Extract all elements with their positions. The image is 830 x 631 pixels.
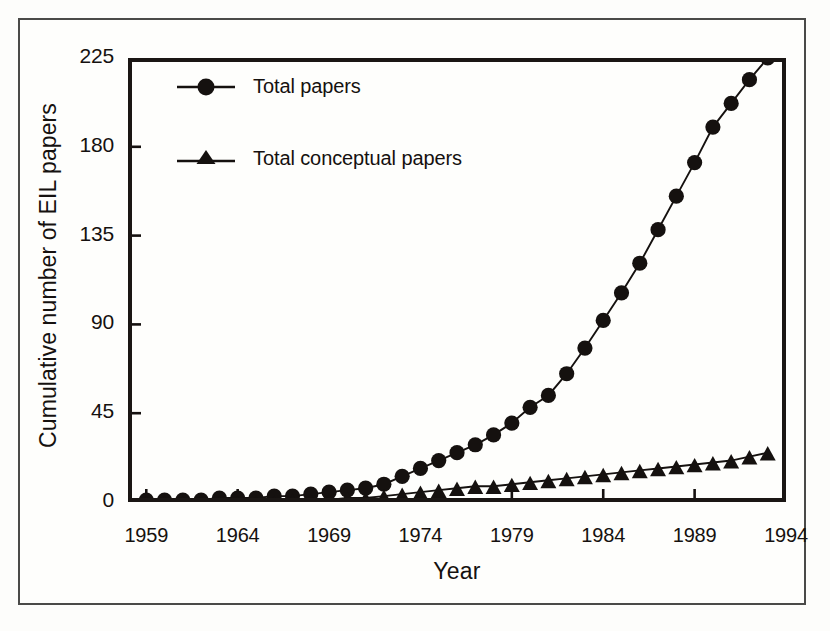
y-tick-label: 90 xyxy=(0,310,114,334)
y-tick-label: 45 xyxy=(0,399,114,423)
y-tick-label: 225 xyxy=(0,44,114,68)
y-tick-label: 0 xyxy=(0,488,114,512)
x-tick-label: 1994 xyxy=(736,524,830,547)
y-tick-label: 180 xyxy=(0,133,114,157)
legend-entry-total-papers: Total papers xyxy=(175,72,505,118)
x-axis-label: Year xyxy=(128,558,786,585)
legend-entry-total-conceptual-papers: Total conceptual papers xyxy=(175,144,505,190)
legend-label: Total papers xyxy=(253,75,361,98)
x-tick-label: 1959 xyxy=(96,524,196,547)
x-tick-label: 1989 xyxy=(645,524,745,547)
triangle-marker-icon xyxy=(175,144,237,174)
scanned-page: Cumulative number of EIL papers Year 045… xyxy=(0,0,830,631)
x-tick-label: 1969 xyxy=(279,524,379,547)
legend-label: Total conceptual papers xyxy=(253,147,462,170)
x-tick-label: 1974 xyxy=(370,524,470,547)
x-tick-label: 1984 xyxy=(553,524,653,547)
chart-figure: Cumulative number of EIL papers Year 045… xyxy=(0,0,830,631)
x-tick-label: 1964 xyxy=(188,524,288,547)
x-tick-label: 1979 xyxy=(462,524,562,547)
chart-legend: Total papers Total conceptual papers xyxy=(175,72,505,190)
circle-marker-icon xyxy=(175,72,237,102)
y-tick-label: 135 xyxy=(0,222,114,246)
